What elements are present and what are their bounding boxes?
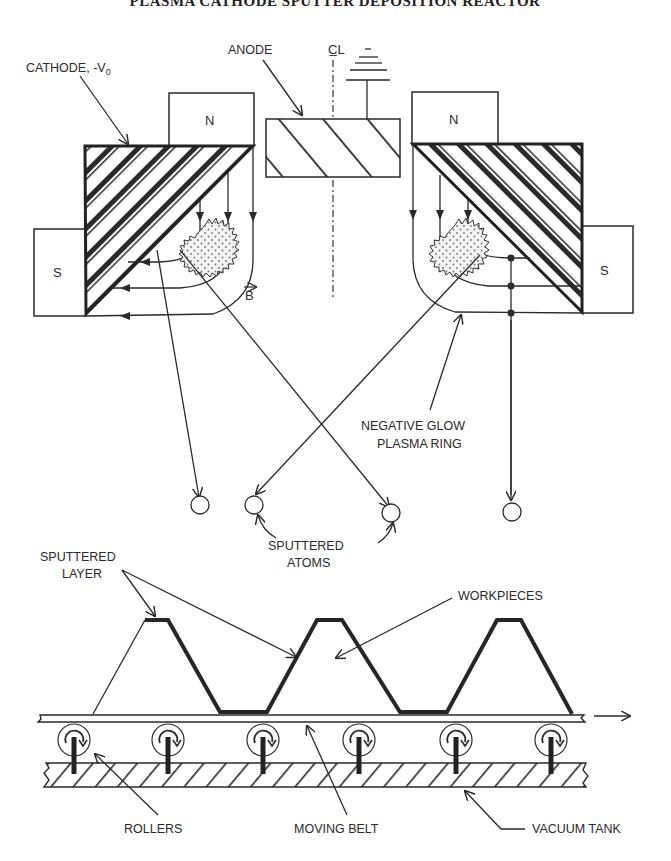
rollers-label: ROLLERS: [124, 822, 182, 836]
svg-text:N: N: [205, 113, 214, 128]
svg-text:S: S: [600, 263, 609, 278]
right-magnet-south: S: [582, 226, 633, 313]
sputter-reactor-diagram: PLASMA CATHODE SPUTTER DEPOSITION REACTO…: [0, 0, 671, 861]
right-magnet-north: N: [412, 92, 498, 145]
left-magnet-north: N: [169, 93, 254, 146]
sputtered-layer-label-2: LAYER: [62, 567, 102, 581]
plasma-ring-label: NEGATIVE GLOW: [361, 419, 465, 433]
moving-belt-label: MOVING BELT: [294, 822, 379, 836]
sputtered-atoms-label: SPUTTERED: [268, 539, 344, 553]
sputtered-atoms-label-2: ATOMS: [287, 556, 330, 570]
svg-text:C̲L: C̲L: [328, 42, 345, 57]
sputtered-atom: [245, 496, 263, 514]
right-plasma-ring: [429, 218, 489, 277]
left-plasma-ring: [179, 218, 239, 277]
svg-text:S: S: [53, 265, 62, 280]
plasma-ring-label-2: PLASMA RING: [377, 437, 462, 451]
right-cathode: [413, 144, 582, 312]
sputtered-atom: [503, 503, 521, 521]
workpieces-label: WORKPIECES: [458, 589, 543, 603]
anode-label: ANODE: [228, 43, 272, 57]
cathode-label: CATHODE, -V0: [26, 61, 111, 77]
diagram-title: PLASMA CATHODE SPUTTER DEPOSITION REACTO…: [130, 0, 541, 9]
anode: [266, 119, 400, 177]
ground-icon: [346, 49, 390, 119]
sputtered-layer-label: SPUTTERED: [40, 550, 116, 564]
sputtered-atom: [382, 504, 400, 522]
workpieces: [93, 620, 572, 714]
sputtered-atom: [191, 496, 209, 514]
atom-trajectories: [157, 250, 511, 507]
left-magnet-south: S: [34, 229, 86, 316]
vacuum-tank-label: VACUUM TANK: [532, 822, 622, 836]
moving-belt: [38, 715, 585, 722]
field-label: B: [245, 288, 254, 303]
svg-text:N: N: [449, 112, 458, 127]
